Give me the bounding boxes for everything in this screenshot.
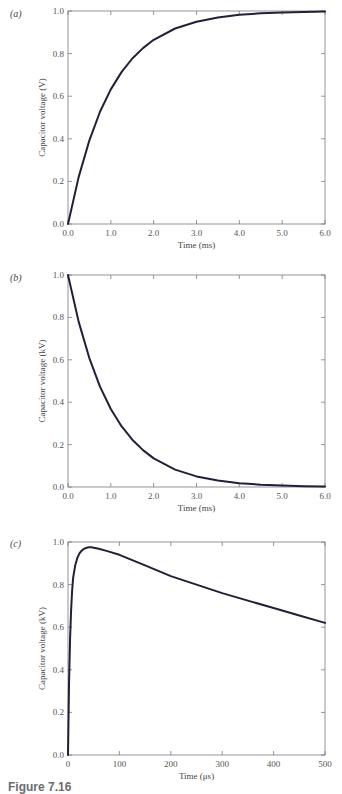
y-tick-label: 0.4	[53, 665, 65, 675]
figure-caption: Figure 7.16	[8, 780, 71, 794]
y-tick-label: 0.8	[53, 580, 65, 590]
x-tick-label: 200	[164, 759, 178, 769]
x-tick-label: 500	[318, 759, 332, 769]
y-tick-label: 0.0	[53, 750, 65, 760]
x-tick-label: 400	[267, 759, 281, 769]
x-tick-label: 0	[66, 759, 71, 769]
x-tick-label: 300	[215, 759, 229, 769]
plot-frame	[68, 542, 325, 755]
y-tick-label: 0.2	[53, 707, 64, 717]
y-axis-title: Capacitor voltage (kV)	[37, 607, 47, 690]
y-tick-label: 0.6	[53, 622, 65, 632]
y-tick-label: 1.0	[53, 537, 65, 547]
x-tick-label: 100	[113, 759, 127, 769]
x-axis-title: Time (μs)	[179, 771, 214, 781]
data-curve	[68, 547, 325, 755]
